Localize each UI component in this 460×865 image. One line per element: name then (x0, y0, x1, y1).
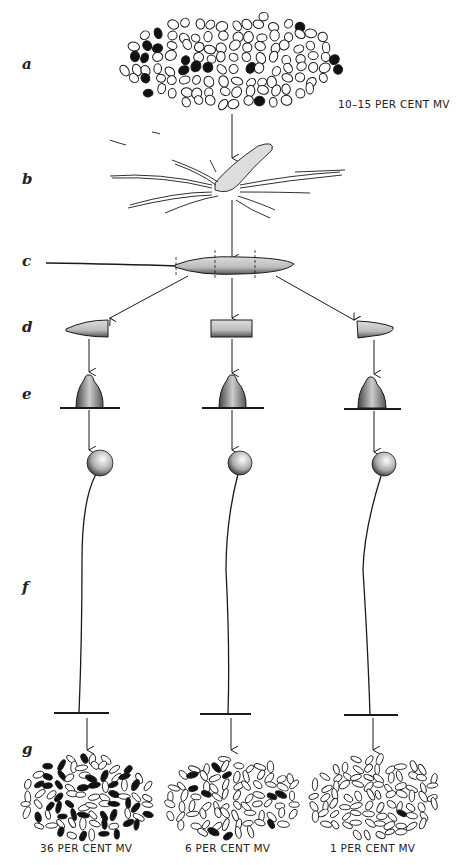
stage-c-slug (46, 250, 294, 280)
stage-g-spores-1pct (308, 753, 438, 841)
stage-d-fragments (66, 320, 393, 338)
stage-g-spores-6pct (163, 756, 300, 842)
stage-g-spores-36pct (21, 753, 154, 842)
stage-e-mounds (60, 375, 401, 409)
arrow-c-d-left (110, 276, 188, 318)
stage-b-aggregate (110, 132, 345, 218)
arrow-c-d-right (276, 276, 354, 320)
stage-f-fruiting-bodies (54, 450, 398, 715)
diagram-canvas (0, 0, 460, 865)
stage-a-cell-population (118, 12, 346, 116)
